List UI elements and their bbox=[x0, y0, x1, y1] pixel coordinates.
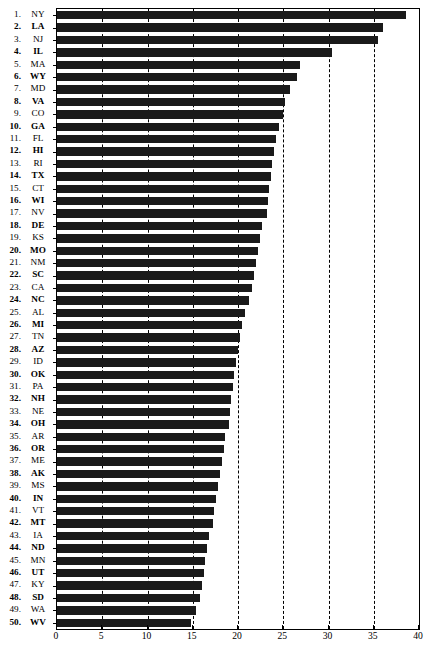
bar-oh bbox=[57, 420, 229, 429]
category-name: ID bbox=[26, 355, 50, 367]
bar-nh bbox=[57, 395, 231, 404]
bar-nv bbox=[57, 209, 267, 218]
category-name: WA bbox=[26, 603, 50, 615]
category-name: NH bbox=[26, 392, 50, 404]
rank-number: 36. bbox=[0, 442, 21, 454]
bar-ct bbox=[57, 185, 269, 194]
row-label-ny: 1.NY bbox=[0, 8, 52, 20]
bar-md bbox=[57, 85, 290, 94]
category-name: HI bbox=[26, 144, 50, 156]
category-name: DE bbox=[26, 219, 50, 231]
bar-tn bbox=[57, 333, 240, 342]
bar-ar bbox=[57, 433, 225, 442]
bar-nd bbox=[57, 544, 207, 553]
bar-wy bbox=[57, 73, 297, 82]
rank-number: 14. bbox=[0, 169, 21, 181]
rank-number: 32. bbox=[0, 392, 21, 404]
bar-ia bbox=[57, 532, 209, 541]
category-name: KY bbox=[26, 578, 50, 590]
category-name: OH bbox=[26, 417, 50, 429]
bar-vt bbox=[57, 507, 214, 516]
row-label-tn: 27.TN bbox=[0, 330, 52, 342]
rank-number: 28. bbox=[0, 343, 21, 355]
category-name: WV bbox=[26, 616, 50, 628]
bar-ut bbox=[57, 569, 204, 578]
x-tick-label-30: 30 bbox=[323, 630, 333, 642]
row-label-ne: 33.NE bbox=[0, 405, 52, 417]
row-label-il: 4.IL bbox=[0, 45, 52, 57]
category-name: CO bbox=[26, 107, 50, 119]
rank-number: 24. bbox=[0, 293, 21, 305]
bar-az bbox=[57, 346, 238, 355]
category-name: NJ bbox=[26, 33, 50, 45]
rank-number: 45. bbox=[0, 554, 21, 566]
bar-in bbox=[57, 495, 216, 504]
rank-number: 40. bbox=[0, 492, 21, 504]
bar-mo bbox=[57, 247, 258, 256]
row-label-wv: 50.WV bbox=[0, 616, 52, 628]
rank-number: 6. bbox=[0, 70, 21, 82]
row-label-oh: 34.OH bbox=[0, 417, 52, 429]
rank-number: 43. bbox=[0, 529, 21, 541]
row-label-ca: 23.CA bbox=[0, 281, 52, 293]
rank-number: 31. bbox=[0, 380, 21, 392]
category-name: NM bbox=[26, 256, 50, 268]
category-name: AK bbox=[26, 467, 50, 479]
bar-pa bbox=[57, 383, 233, 392]
rank-number: 5. bbox=[0, 58, 21, 70]
rank-number: 8. bbox=[0, 95, 21, 107]
category-name: KS bbox=[26, 231, 50, 243]
bar-wv bbox=[57, 619, 191, 628]
row-label-tx: 14.TX bbox=[0, 169, 52, 181]
bar-ok bbox=[57, 371, 234, 380]
category-name: NY bbox=[26, 8, 50, 20]
category-name: FL bbox=[26, 132, 50, 144]
x-axis: 0510152025303540 bbox=[56, 630, 418, 650]
category-name: MS bbox=[26, 479, 50, 491]
rank-number: 15. bbox=[0, 182, 21, 194]
row-label-al: 25.AL bbox=[0, 306, 52, 318]
row-label-ak: 38.AK bbox=[0, 467, 52, 479]
rank-number: 27. bbox=[0, 330, 21, 342]
category-name: WI bbox=[26, 194, 50, 206]
category-name: VT bbox=[26, 504, 50, 516]
rank-number: 13. bbox=[0, 157, 21, 169]
bar-al bbox=[57, 309, 245, 318]
x-tick-label-5: 5 bbox=[99, 630, 104, 642]
category-name: NE bbox=[26, 405, 50, 417]
rank-number: 48. bbox=[0, 591, 21, 603]
bar-wi bbox=[57, 197, 268, 206]
rank-number: 41. bbox=[0, 504, 21, 516]
row-label-mn: 45.MN bbox=[0, 554, 52, 566]
row-label-mt: 42.MT bbox=[0, 516, 52, 528]
category-name: SC bbox=[26, 268, 50, 280]
bar-la bbox=[57, 23, 383, 32]
rank-number: 20. bbox=[0, 244, 21, 256]
row-label-vt: 41.VT bbox=[0, 504, 52, 516]
row-label-ct: 15.CT bbox=[0, 182, 52, 194]
category-name: TN bbox=[26, 330, 50, 342]
category-name: MN bbox=[26, 554, 50, 566]
category-name: AR bbox=[26, 430, 50, 442]
row-label-sc: 22.SC bbox=[0, 268, 52, 280]
rank-number: 18. bbox=[0, 219, 21, 231]
bar-wa bbox=[57, 606, 196, 615]
row-label-sd: 48.SD bbox=[0, 591, 52, 603]
category-name: IL bbox=[26, 45, 50, 57]
bar-co bbox=[57, 110, 283, 119]
row-label-id: 29.ID bbox=[0, 355, 52, 367]
rank-number: 33. bbox=[0, 405, 21, 417]
row-label-ms: 39.MS bbox=[0, 479, 52, 491]
rank-number: 16. bbox=[0, 194, 21, 206]
bar-sd bbox=[57, 594, 200, 603]
bar-ky bbox=[57, 581, 202, 590]
rank-number: 46. bbox=[0, 566, 21, 578]
bar-ks bbox=[57, 234, 260, 243]
row-label-ma: 5.MA bbox=[0, 58, 52, 70]
bar-ny bbox=[57, 11, 406, 20]
rank-number: 1. bbox=[0, 8, 21, 20]
row-label-ia: 43.IA bbox=[0, 529, 52, 541]
category-name: IN bbox=[26, 492, 50, 504]
rank-number: 10. bbox=[0, 120, 21, 132]
rank-number: 2. bbox=[0, 20, 21, 32]
